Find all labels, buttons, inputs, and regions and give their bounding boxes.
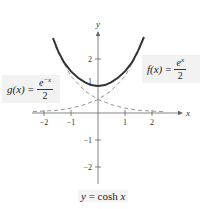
x-axis-name: x	[185, 108, 190, 118]
g-label-numerator: e−x	[37, 77, 53, 90]
caption-lhs: y	[81, 190, 86, 202]
x-tick-label: −1	[67, 118, 76, 127]
y-axis-name: y	[95, 19, 100, 29]
f-label-fraction: ex 2	[174, 57, 186, 81]
chart-caption: y = cosh x	[78, 190, 128, 202]
y-tick-label: −2	[83, 163, 92, 172]
y-tick-label: 2	[88, 55, 92, 64]
caption-variable: x	[121, 190, 126, 202]
cosh-curve	[53, 37, 144, 86]
g-num-exp: −x	[43, 76, 51, 84]
g-label-equals: =	[28, 83, 34, 95]
g-label-fraction: e−x 2	[37, 77, 53, 101]
y-tick-label: −1	[83, 136, 92, 145]
f-label-equals: =	[165, 63, 171, 75]
x-tick-label: −2	[40, 118, 49, 127]
x-tick-label: 1	[123, 118, 127, 127]
x-tick-label: 2	[150, 118, 154, 127]
caption-equals: =	[89, 190, 95, 202]
g-label-denominator: 2	[43, 90, 48, 101]
f-function-label: f(x) = ex 2	[142, 55, 200, 83]
cosh-plot: −2 −1 1 2 2 1 −1 −2 x y	[0, 0, 200, 209]
f-label-numerator: ex	[174, 57, 186, 70]
f-label-lhs: f(x)	[147, 63, 162, 75]
f-label-denominator: 2	[178, 70, 183, 81]
caption-function: cosh	[98, 190, 118, 202]
g-label-lhs: g(x)	[7, 83, 25, 95]
f-num-exp: x	[181, 56, 184, 64]
g-function-label: g(x) = e−x 2	[2, 75, 60, 103]
